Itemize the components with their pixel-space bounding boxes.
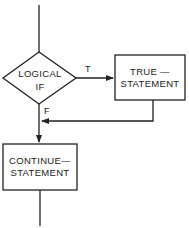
flowchart: LOGICAL IF T TRUE — STATEMENT F CONTINUE… <box>0 0 189 228</box>
false-branch-label: F <box>44 106 50 116</box>
true-branch-label: T <box>85 64 91 74</box>
true-statement-line2: STATEMENT <box>121 78 180 89</box>
continue-statement-line1: CONTINUE— <box>9 155 71 166</box>
continue-statement-node: CONTINUE— STATEMENT <box>3 144 77 190</box>
decision-node: LOGICAL IF <box>3 52 76 104</box>
true-statement-node: TRUE — STATEMENT <box>115 55 185 100</box>
decision-label-line2: IF <box>35 81 44 92</box>
return-line <box>42 100 153 121</box>
continue-statement-line2: STATEMENT <box>11 167 70 178</box>
true-statement-line1: TRUE — <box>130 66 170 77</box>
decision-label-line1: LOGICAL <box>18 68 61 79</box>
